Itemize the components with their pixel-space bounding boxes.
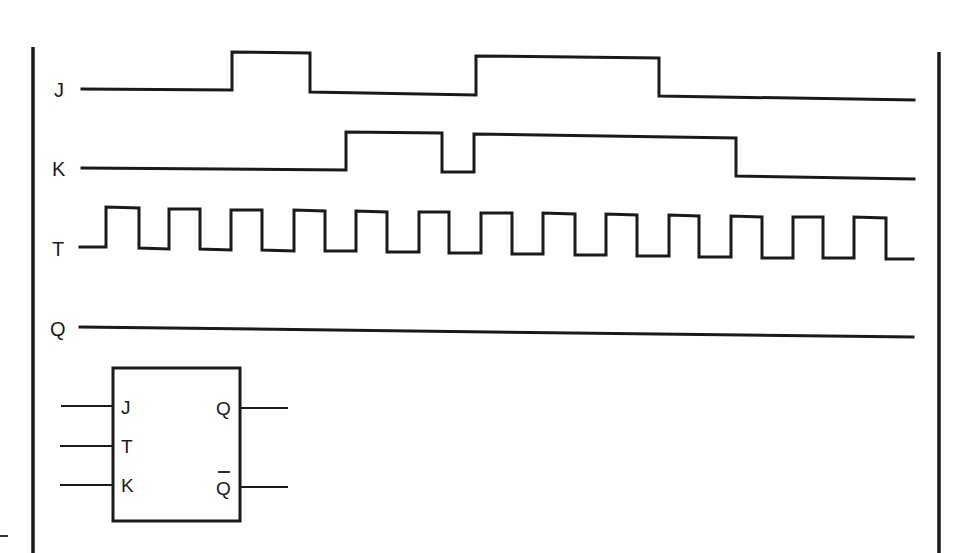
jk-flipflop-symbol: J T K Q Q xyxy=(60,368,288,521)
signal-label-k: K xyxy=(52,158,66,180)
waveform-t xyxy=(80,207,913,259)
pin-label-q: Q xyxy=(216,398,231,419)
signal-label-j: J xyxy=(54,79,64,101)
signal-label-q: Q xyxy=(50,318,66,340)
waveform-j xyxy=(82,52,914,100)
timing-diagram: J K T Q J T K Q Q xyxy=(0,0,964,553)
pin-label-t: T xyxy=(121,436,133,457)
signal-label-t: T xyxy=(52,238,64,260)
waveform-q xyxy=(80,327,913,337)
waveform-k xyxy=(82,132,914,179)
pin-label-qbar: Q xyxy=(216,478,231,499)
pin-label-j: J xyxy=(121,397,131,418)
pin-label-k: K xyxy=(121,475,134,496)
